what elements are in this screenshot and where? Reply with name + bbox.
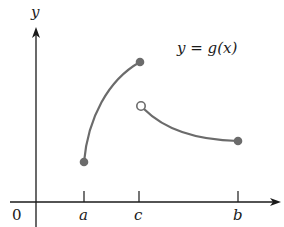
tick-label-a: a [79,206,88,224]
curve-left-piece [84,62,140,162]
y-axis-label: y [30,3,40,21]
function-label: y = g(x) [176,39,237,57]
open-point-c-icon [137,102,145,110]
tick-label-c: c [134,206,143,224]
curve-right-piece [144,109,238,141]
function-graph-diagram: y 0 a c b y = g(x) [0,0,284,227]
x-ticks: a c b [79,191,243,224]
closed-point-c-icon [136,58,145,67]
origin-label: 0 [12,206,22,224]
closed-point-a-icon [80,158,89,167]
tick-label-b: b [233,206,243,224]
y-axis: y [30,3,40,227]
closed-point-b-icon [234,137,243,146]
